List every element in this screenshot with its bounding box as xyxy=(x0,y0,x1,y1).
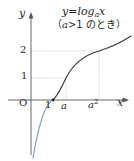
logarithm-graph-figure: y x O 2 1 1 a a2 y=logax （a>1 のとき） xyxy=(0,0,134,161)
equation-base: a xyxy=(95,10,99,19)
equation-label: y=logax xyxy=(62,6,105,17)
y-tick-label-1: 1 xyxy=(21,71,27,81)
log-curve-upper-branch xyxy=(53,36,131,100)
condition-close-paren: ） xyxy=(116,19,126,30)
y-tick-label-2: 2 xyxy=(20,45,26,55)
gridlines xyxy=(31,51,99,100)
condition-label: （a>1 のとき） xyxy=(52,20,126,30)
x-axis-arrow xyxy=(123,98,130,103)
equation-prefix: y=log xyxy=(62,5,95,18)
equation-argument: x xyxy=(99,5,105,18)
x-tick-label-1: 1 xyxy=(45,100,51,110)
x-tick-a-squared-exponent: 2 xyxy=(94,98,98,106)
y-axis-label: y xyxy=(19,8,25,19)
x-tick-label-a-squared: a2 xyxy=(88,99,98,110)
x-axis-label: x xyxy=(117,97,123,108)
x-tick-label-a: a xyxy=(61,101,67,111)
y-axis xyxy=(29,12,34,155)
y-axis-arrow xyxy=(29,12,34,19)
point-x-intercept xyxy=(52,99,55,102)
condition-relation: >1 xyxy=(68,19,83,30)
origin-label: O xyxy=(19,98,27,108)
condition-japanese-text: のとき xyxy=(83,19,116,30)
condition-open-paren: （ xyxy=(52,19,62,30)
